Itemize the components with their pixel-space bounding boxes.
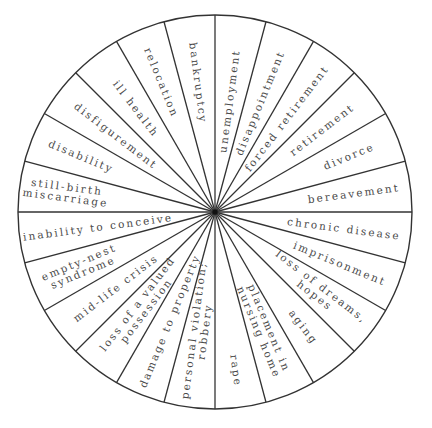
loss-wheel-diagram: unemploymentdisappointmentforced retirem… <box>0 0 432 428</box>
wheel-hub <box>212 209 217 214</box>
